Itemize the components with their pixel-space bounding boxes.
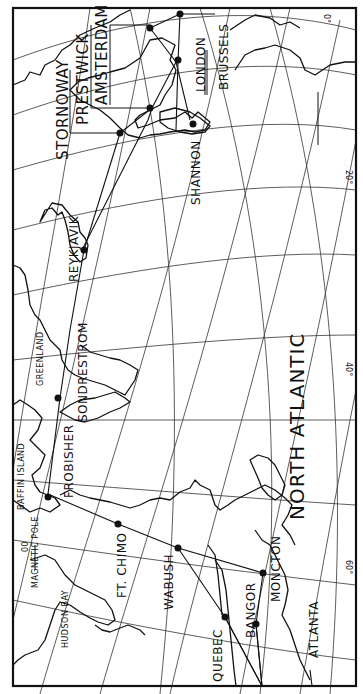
label-shannon: SHANNON: [189, 140, 203, 205]
label-ftchimo: FT. CHIMO: [115, 533, 129, 598]
label-greenland: GREENLAND: [36, 331, 45, 386]
label-hudson-bay: HUDSON BAY: [61, 590, 70, 648]
tick-0: 0°: [322, 14, 331, 23]
label-quebec: QUEBEC: [211, 629, 225, 682]
tick-20: 20°: [344, 170, 353, 184]
label-bangor: BANGOR: [244, 583, 258, 639]
route-map: STORNOWAY PRESTWICK AMSTERDAM LONDON BRU…: [0, 0, 363, 694]
tick-60: 60°: [344, 560, 353, 574]
marker-reykjavik: [81, 247, 88, 254]
label-moncton: MONCTON: [269, 536, 283, 602]
marker-prestwick: [147, 25, 154, 32]
label-magnetic-pole-marker: 00: [21, 541, 30, 552]
st-lawrence-2: [208, 545, 222, 615]
label-stornoway: STORNOWAY: [54, 59, 72, 160]
marker-moncton: [260, 570, 267, 577]
label-north-atlantic: NORTH ATLANTIC: [285, 333, 309, 520]
label-brussels: BRUSSELS: [217, 24, 231, 90]
label-atlanta: ATLANTA: [307, 601, 321, 658]
label-london: LONDON: [194, 37, 208, 92]
label-magnetic-pole: MAGNETIC POLE: [31, 516, 40, 588]
marker-sondrestrom: [55, 395, 62, 402]
label-wabush: WABUSH: [162, 554, 176, 610]
label-frobisher: FROBISHER: [62, 424, 76, 498]
label-baffin-island: BAFFIN ISLAND: [17, 443, 26, 510]
marker-frobisher: [45, 494, 52, 501]
marker-shannon: [190, 121, 197, 128]
labrador-coast: [60, 480, 295, 545]
tick-40: 40°: [344, 362, 353, 376]
label-prestwick: PRESTWICK: [74, 33, 92, 125]
greenland-south: [60, 392, 130, 422]
label-sondrestrom: SONDRESTROM: [76, 322, 90, 422]
marker-quebec: [222, 614, 229, 621]
label-reykjavik: REYKJAVIK: [67, 215, 81, 282]
label-amsterdam: AMSTERDAM: [93, 4, 111, 105]
marker-london: [175, 57, 182, 64]
marker-ftchimo: [115, 521, 122, 528]
marker-wabush: [175, 545, 182, 552]
europe-coast: [235, 45, 356, 75]
france-coast: [230, 15, 300, 30]
